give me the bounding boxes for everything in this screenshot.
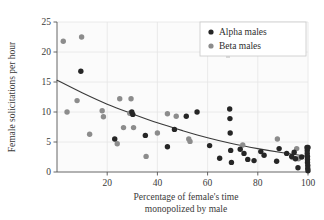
data-point [305, 145, 310, 150]
data-point [112, 136, 117, 141]
data-point [261, 153, 266, 158]
data-point [275, 136, 280, 141]
data-point [276, 146, 281, 151]
legend-marker-alpha-icon [208, 29, 213, 34]
data-point [227, 130, 232, 135]
y-tick-label: 5 [46, 137, 51, 147]
scatter-chart-figure: 0510152025 20406080100 Female solicitati… [0, 0, 324, 220]
data-point [64, 109, 69, 114]
legend-marker-beta-icon [208, 43, 213, 48]
data-point [87, 132, 92, 137]
data-point [78, 69, 83, 74]
data-point [207, 143, 212, 148]
x-tick-label: 80 [253, 178, 263, 188]
legend: Alpha males Beta males [200, 22, 306, 58]
data-point [155, 130, 160, 135]
x-axis-title-line1: Percentage of female's time [134, 192, 239, 202]
data-point [130, 112, 135, 117]
data-point [284, 151, 289, 156]
data-point [274, 159, 279, 164]
y-tick-label: 15 [42, 77, 52, 87]
data-point [299, 154, 304, 159]
y-axis-title: Female solicitations per hour [7, 41, 17, 152]
data-point [117, 96, 122, 101]
data-point [245, 157, 250, 162]
y-axis-tick-labels: 0510152025 [42, 17, 52, 177]
data-point [99, 108, 104, 113]
x-tick-label: 20 [102, 178, 112, 188]
data-point [121, 125, 126, 130]
data-point [79, 34, 84, 39]
x-tick-label: 40 [153, 178, 163, 188]
data-point [165, 144, 170, 149]
x-tick-label: 60 [203, 178, 213, 188]
data-point [187, 139, 192, 144]
legend-label-alpha: Alpha males [219, 27, 267, 37]
y-tick-label: 20 [42, 47, 52, 57]
data-point [172, 127, 177, 132]
data-point [165, 111, 170, 116]
x-tick-label: 100 [301, 178, 316, 188]
chart-svg: 0510152025 20406080100 Female solicitati… [0, 0, 324, 220]
data-point [293, 156, 298, 161]
data-point [238, 147, 243, 152]
data-point [143, 154, 148, 159]
data-point [228, 148, 233, 153]
y-tick-label: 25 [42, 17, 52, 27]
data-point [101, 114, 106, 119]
data-point [194, 109, 199, 114]
data-point [131, 125, 136, 130]
data-point [74, 98, 79, 103]
data-point [291, 150, 296, 155]
data-point [217, 156, 222, 161]
y-axis-ticks [54, 22, 58, 172]
data-point [251, 158, 256, 163]
data-point [143, 133, 148, 138]
data-point [61, 39, 66, 44]
y-tick-label: 10 [42, 107, 52, 117]
data-point [227, 106, 232, 111]
x-axis-title-line2: monopolized by male [145, 204, 227, 214]
y-tick-label: 0 [46, 167, 51, 177]
x-axis-tick-labels: 20406080100 [102, 178, 315, 188]
x-axis-ticks [107, 172, 308, 176]
data-point [241, 151, 246, 156]
data-point [115, 141, 120, 146]
data-point [174, 114, 179, 119]
data-point [295, 165, 300, 170]
data-point [229, 160, 234, 165]
legend-label-beta: Beta males [219, 41, 261, 51]
data-point [227, 116, 232, 121]
data-point [305, 168, 310, 173]
data-point [184, 114, 189, 119]
data-point [128, 96, 133, 101]
